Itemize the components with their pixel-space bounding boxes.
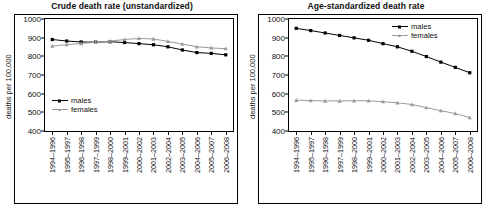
x-axis-tick-label: 2000–2002 — [379, 137, 388, 173]
x-axis-tick-label: 1999–2001 — [365, 137, 374, 173]
x-axis-tick-mark — [153, 131, 154, 135]
x-axis-tick-mark — [311, 131, 312, 135]
x-axis-tick-mark — [325, 131, 326, 135]
x-axis-tick-label: 1998–2000 — [106, 137, 115, 173]
x-axis-tick-mark — [354, 131, 355, 135]
chart-title: Crude death rate (unstandardized) — [0, 1, 244, 11]
x-axis-tick-label: 2001–2003 — [393, 137, 402, 173]
legend-swatch-females — [392, 35, 408, 36]
y-axis-tick-label: 900 — [272, 33, 285, 42]
x-axis-tick-mark — [441, 131, 442, 135]
x-axis-tick-label: 2006–2008 — [466, 137, 475, 173]
x-axis-tick-label: 1997–1999 — [92, 137, 101, 173]
x-axis-tick-mark — [296, 131, 297, 135]
legend-item-males[interactable]: males — [52, 96, 98, 105]
x-axis-tick-label: 1999–2001 — [121, 137, 130, 173]
legend-swatch-males — [392, 26, 408, 27]
figure-root: Crude death rate (unstandardized) deaths… — [0, 0, 488, 209]
x-axis-tick-label: 1994–1996 — [48, 137, 57, 173]
chart-legend: malesfemales — [52, 96, 98, 114]
x-axis-tick-mark — [226, 131, 227, 135]
series-line-males — [296, 28, 470, 72]
legend-marker-males — [58, 99, 61, 102]
x-axis-tick-mark — [182, 131, 183, 135]
data-point-males — [137, 42, 140, 45]
data-point-males — [352, 36, 355, 39]
legend-label: females — [71, 105, 98, 114]
y-axis-tick-label: 700 — [28, 71, 41, 80]
y-axis-label: deaths per 100,000 — [246, 34, 258, 140]
x-axis-tick-mark — [125, 131, 126, 135]
x-axis-tick-label: 1995–1997 — [63, 137, 72, 173]
y-axis-tick-label: 700 — [272, 71, 285, 80]
y-axis-tick-label: 600 — [272, 89, 285, 98]
data-point-males — [410, 50, 413, 53]
x-axis-tick-mark — [412, 131, 413, 135]
y-axis-label: deaths per 100,000 — [2, 34, 14, 140]
x-axis-tick-mark — [96, 131, 97, 135]
x-axis-tick-label: 1998–2000 — [350, 137, 359, 173]
legend-item-females[interactable]: females — [52, 105, 98, 114]
plot-area: 40050060070080090010001994–19961995–1997… — [288, 18, 478, 132]
x-axis-tick-label: 2002–2004 — [408, 137, 417, 173]
x-axis-tick-label: 1995–1997 — [307, 137, 316, 173]
data-point-males — [181, 48, 184, 51]
y-axis-tick-label: 400 — [28, 127, 41, 136]
data-point-males — [65, 39, 68, 42]
x-axis-tick-label: 2003–2005 — [422, 137, 431, 173]
series-layer — [289, 19, 477, 131]
y-axis-tick-label: 800 — [272, 52, 285, 61]
data-point-males — [396, 45, 399, 48]
x-axis-tick-mark — [139, 131, 140, 135]
y-axis-tick-label: 400 — [272, 127, 285, 136]
legend-swatch-males — [52, 100, 68, 101]
data-point-males — [210, 52, 213, 55]
x-axis-tick-label: 2000–2002 — [135, 137, 144, 173]
chart-panel-crude: Crude death rate (unstandardized) deaths… — [0, 0, 244, 209]
x-axis-tick-label: 2001–2003 — [149, 137, 158, 173]
data-point-males — [454, 66, 457, 69]
x-axis-tick-mark — [426, 131, 427, 135]
x-axis-tick-mark — [383, 131, 384, 135]
data-point-males — [224, 53, 227, 56]
x-axis-tick-mark — [211, 131, 212, 135]
x-axis-tick-mark — [340, 131, 341, 135]
x-axis-tick-mark — [168, 131, 169, 135]
legend-marker-females — [398, 34, 401, 37]
data-point-males — [295, 27, 298, 30]
chart-panel-standardized: Age-standardized death rate deaths per 1… — [244, 0, 488, 209]
data-point-males — [51, 38, 54, 41]
x-axis-tick-mark — [397, 131, 398, 135]
chart-title: Age-standardized death rate — [244, 1, 488, 11]
legend-marker-males — [398, 25, 401, 28]
data-point-males — [324, 31, 327, 34]
data-point-males — [468, 71, 471, 74]
x-axis-tick-label: 1996–1998 — [321, 137, 330, 173]
data-point-males — [166, 45, 169, 48]
y-axis-tick-label: 600 — [28, 89, 41, 98]
data-point-males — [381, 42, 384, 45]
data-point-males — [152, 43, 155, 46]
legend-label: females — [411, 31, 438, 40]
y-axis-tick-label: 800 — [28, 52, 41, 61]
legend-swatch-females — [52, 109, 68, 110]
x-axis-tick-label: 1994–1996 — [292, 137, 301, 173]
legend-item-females[interactable]: females — [392, 31, 438, 40]
x-axis-tick-label: 2004–2006 — [437, 137, 446, 173]
y-axis-tick-label: 1000 — [267, 15, 285, 24]
legend-marker-females — [58, 108, 61, 111]
data-point-males — [195, 51, 198, 54]
y-axis-tick-label: 1000 — [23, 15, 41, 24]
data-point-males — [367, 39, 370, 42]
y-axis-tick-label: 900 — [28, 33, 41, 42]
data-point-males — [439, 61, 442, 64]
x-axis-tick-mark — [197, 131, 198, 135]
data-point-males — [309, 29, 312, 32]
x-axis-tick-mark — [110, 131, 111, 135]
legend-item-males[interactable]: males — [392, 22, 438, 31]
x-axis-tick-label: 1997–1999 — [336, 137, 345, 173]
x-axis-tick-label: 1996–1998 — [77, 137, 86, 173]
x-axis-tick-label: 2006–2008 — [222, 137, 231, 173]
x-axis-tick-mark — [470, 131, 471, 135]
x-axis-tick-mark — [81, 131, 82, 135]
